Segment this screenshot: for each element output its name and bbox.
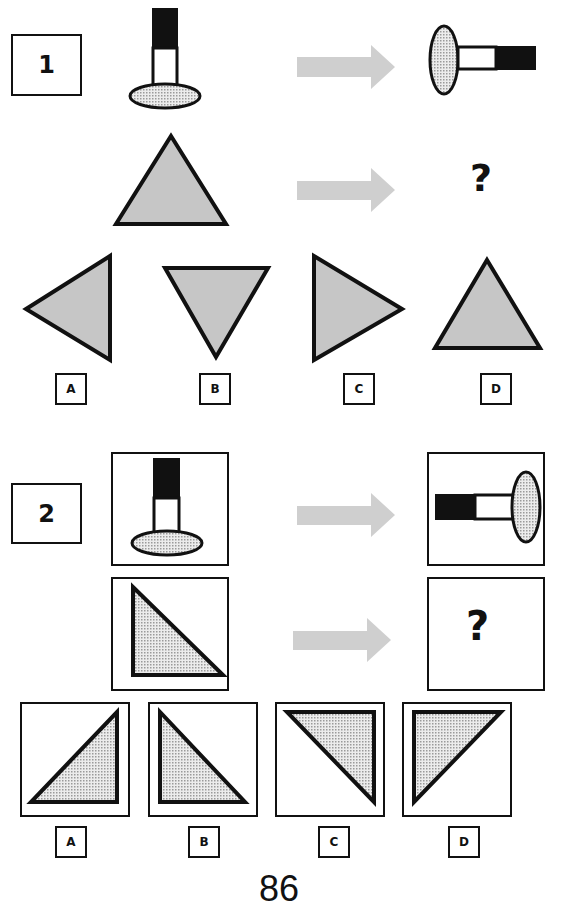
puzzle-1-unknown-mark: ? bbox=[470, 156, 492, 200]
key-black-bar bbox=[152, 8, 178, 48]
key-black-bar bbox=[496, 46, 536, 70]
page-number: 86 bbox=[259, 868, 299, 905]
key-white-stem bbox=[475, 495, 513, 519]
puzzle-2-question-triangle bbox=[111, 577, 229, 691]
puzzle-1-option-d-label[interactable]: D bbox=[480, 373, 512, 405]
key-dotted-oval bbox=[130, 84, 200, 108]
key-black-bar bbox=[435, 494, 475, 520]
puzzle-1-option-d-triangle bbox=[430, 255, 550, 355]
puzzle-1-number-box: 1 bbox=[11, 34, 82, 96]
puzzle-2-option-d-label[interactable]: D bbox=[448, 826, 480, 858]
puzzle-1-arrow-question bbox=[296, 168, 396, 216]
key-dotted-oval bbox=[430, 26, 458, 94]
puzzle-2-arrow-example bbox=[296, 493, 396, 541]
puzzle-1-option-a-triangle bbox=[20, 250, 125, 365]
key-dotted-oval bbox=[132, 531, 202, 555]
puzzle-2-example-key-sideways bbox=[433, 470, 543, 545]
key-white-stem bbox=[153, 48, 177, 86]
puzzle-2-unknown-mark: ? bbox=[466, 603, 489, 649]
puzzle-1-option-b-triangle bbox=[158, 262, 273, 362]
puzzle-1-option-a-label[interactable]: A bbox=[55, 373, 87, 405]
puzzle-2-option-b-label[interactable]: B bbox=[188, 826, 220, 858]
puzzle-1-arrow-example bbox=[296, 45, 396, 93]
puzzle-2-arrow-question bbox=[292, 618, 392, 666]
puzzle-1-question-triangle bbox=[112, 130, 232, 230]
puzzle-1-number: 1 bbox=[38, 51, 55, 79]
puzzle-2-number-box: 2 bbox=[11, 483, 82, 544]
puzzle-2-option-a-triangle bbox=[20, 702, 130, 817]
puzzle-1-example-key-upright bbox=[125, 5, 210, 110]
puzzle-2-option-d-triangle bbox=[402, 702, 512, 817]
key-white-stem bbox=[458, 47, 496, 69]
puzzle-2-option-c-triangle bbox=[275, 702, 385, 817]
puzzle-1-option-c-label[interactable]: C bbox=[343, 373, 375, 405]
puzzle-1-option-c-triangle bbox=[307, 250, 412, 365]
puzzle-2-option-c-label[interactable]: C bbox=[318, 826, 350, 858]
key-white-stem bbox=[154, 498, 179, 533]
puzzle-1-option-b-label[interactable]: B bbox=[199, 373, 231, 405]
puzzle-2-option-a-label[interactable]: A bbox=[55, 826, 87, 858]
puzzle-2-example-key-upright bbox=[130, 455, 210, 560]
puzzle-1-example-key-sideways bbox=[428, 22, 543, 97]
puzzle-2-number: 2 bbox=[38, 500, 55, 528]
key-dotted-oval bbox=[512, 472, 540, 542]
puzzle-2-option-b-triangle bbox=[148, 702, 258, 817]
key-black-bar bbox=[153, 458, 180, 498]
